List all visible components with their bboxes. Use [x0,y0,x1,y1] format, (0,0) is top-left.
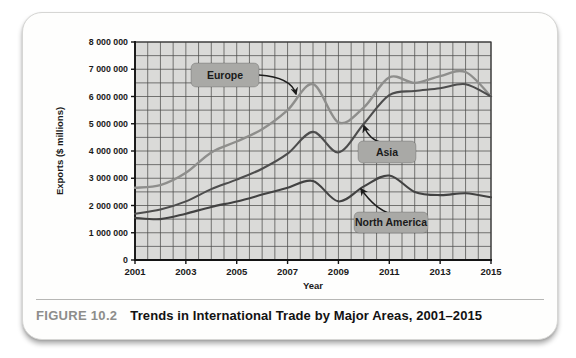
annotation-label-europe: Europe [207,69,243,81]
x-axis-tick-label: 2015 [480,266,502,277]
y-axis-title: Exports ($ millions) [54,107,65,195]
y-axis-tick-label: 5 000 000 [89,119,128,129]
figure-title: Trends in International Trade by Major A… [130,308,482,323]
x-axis-tick-label: 2001 [124,266,146,277]
figure-number: FIGURE 10.2 [36,308,117,323]
y-axis-tick-label: 0 [123,255,128,265]
y-axis-tick-label: 4 000 000 [89,146,128,156]
y-axis-tick-label: 1 000 000 [89,228,128,238]
annotation-label-north-america: North America [355,216,427,228]
y-axis-tick-label: 6 000 000 [89,92,128,102]
x-axis-title: Year [303,280,323,291]
figure-card: 01 000 0002 000 0003 000 0004 000 0005 0… [22,12,558,340]
y-axis-tick-label: 7 000 000 [89,64,128,74]
y-axis-tick-label: 3 000 000 [89,173,128,183]
x-axis-tick-label: 2007 [277,266,298,277]
x-axis-tick-label: 2005 [226,266,248,277]
annotation-label-asia: Asia [376,146,398,158]
page-background: 01 000 0002 000 0003 000 0004 000 0005 0… [0,0,576,358]
y-axis-tick-label: 8 000 000 [89,37,128,47]
trade-chart: 01 000 0002 000 0003 000 0004 000 0005 0… [23,13,557,339]
figure-caption: FIGURE 10.2 Trends in International Trad… [36,299,544,323]
x-axis-tick-label: 2003 [175,266,196,277]
x-axis-tick-label: 2013 [430,266,451,277]
x-axis-tick-label: 2011 [379,266,400,277]
y-axis-tick-label: 2 000 000 [89,201,128,211]
x-axis-tick-label: 2009 [328,266,349,277]
